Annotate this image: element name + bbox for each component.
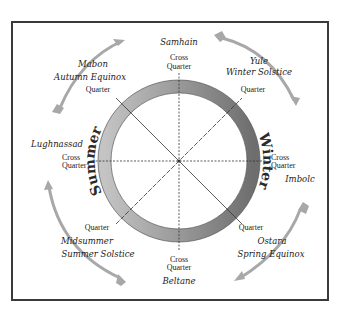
festival-beltane-type-line2: Quarter (167, 263, 192, 272)
wheel-of-year-diagram: Summer Winter Samhain Cross Qua (0, 0, 348, 316)
festival-yule-name: Yule (250, 56, 268, 66)
festival-imbolc-name: Imbolc (284, 174, 315, 184)
festival-yule-subtitle: Winter Solstice (226, 67, 292, 77)
festival-lughnassad-name: Lughnassad (30, 139, 83, 149)
festival-lughnassad-type-line2: Quarter (62, 161, 87, 170)
diagram-canvas: Summer Winter Samhain Cross Qua (0, 0, 348, 316)
festival-yule-type: Quarter (241, 85, 266, 94)
festival-imbolc-type-line2: Quarter (271, 161, 296, 170)
festival-ostara-type: Quarter (239, 223, 264, 232)
festival-ostara-subtitle: Spring Equinox (238, 249, 305, 259)
festival-midsummer-type: Quarter (85, 223, 110, 232)
festival-samhain-type-line2: Quarter (167, 62, 192, 71)
festival-ostara-name: Ostara (258, 236, 287, 246)
festival-midsummer-subtitle: Summer Solstice (61, 249, 134, 259)
festival-mabon-subtitle: Autumn Equinox (53, 72, 126, 82)
festival-samhain-name: Samhain (160, 37, 198, 47)
festival-mabon-name: Mabon (77, 59, 108, 69)
festival-beltane-name: Beltane (162, 276, 196, 286)
festival-mabon-type: Quarter (86, 85, 111, 94)
festival-samhain-type-line1: Cross (170, 53, 188, 62)
festival-midsummer-name: Midsummer (60, 236, 114, 246)
center-point (177, 159, 180, 162)
